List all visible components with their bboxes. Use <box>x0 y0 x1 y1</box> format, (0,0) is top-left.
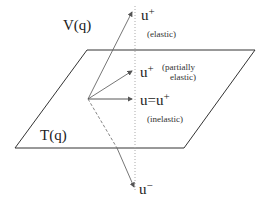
diagram-canvas: V(q) T(q) u+ (elastic) u+ (partially ela… <box>0 0 267 202</box>
inelastic-note: (inelastic) <box>147 115 183 124</box>
partial-note-line2: elastic) <box>170 73 196 82</box>
arrow-elastic <box>88 12 132 99</box>
u-minus-line <box>117 148 134 187</box>
u-plus-partial-label: u+ <box>140 65 154 80</box>
u-minus-dashed-line <box>88 99 117 148</box>
inelastic-label: u=u+ <box>140 93 170 108</box>
u-plus-elastic-label: u+ <box>141 8 155 23</box>
elastic-note: (elastic) <box>147 30 176 39</box>
diagram-graphics <box>0 0 267 202</box>
tangent-space-label: T(q) <box>40 128 67 143</box>
u-minus-label: u− <box>139 182 153 197</box>
velocity-space-label: V(q) <box>63 18 91 33</box>
partial-note-line1: (partially <box>162 63 195 72</box>
